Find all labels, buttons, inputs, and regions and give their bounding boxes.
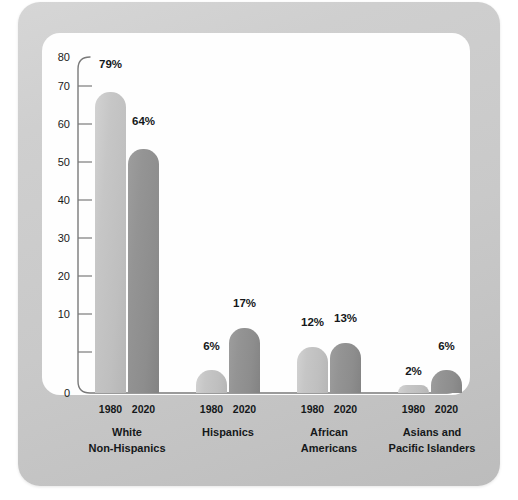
ytick-label-20: 20 bbox=[44, 271, 70, 282]
year-label-asians-pacific-islanders-2020: 2020 bbox=[426, 403, 467, 415]
bar-african-americans-2020 bbox=[330, 343, 361, 393]
bar-value-asians-pacific-islanders-2020: 6% bbox=[421, 340, 472, 352]
ytick-label-60: 60 bbox=[44, 119, 70, 130]
bar-value-asians-pacific-islanders-1980: 2% bbox=[388, 365, 439, 377]
ytick-label-0: 0 bbox=[44, 388, 70, 399]
chart-figure: 80 70 60 50 40 30 20 10 0 79% 64% 1980 2… bbox=[0, 0, 518, 500]
bar-hispanics-2020 bbox=[229, 328, 260, 393]
group-label-white-non-hispanics-line2: Non-Hispanics bbox=[57, 441, 197, 455]
year-label-african-americans-2020: 2020 bbox=[325, 403, 366, 415]
ytick-label-50: 50 bbox=[44, 157, 70, 168]
year-label-hispanics-2020: 2020 bbox=[224, 403, 265, 415]
bar-value-white-non-hispanics-1980: 79% bbox=[85, 58, 136, 70]
bar-african-americans-1980 bbox=[297, 347, 328, 393]
group-label-asians-pacific-islanders-line2: Pacific Islanders bbox=[360, 441, 504, 455]
group-label-asians-pacific-islanders-line1: Asians and bbox=[360, 425, 504, 439]
ytick-label-30: 30 bbox=[44, 233, 70, 244]
bar-white-non-hispanics-1980 bbox=[95, 92, 126, 393]
bar-value-hispanics-2020: 17% bbox=[219, 297, 270, 309]
bar-value-hispanics-1980: 6% bbox=[186, 340, 237, 352]
bar-white-non-hispanics-2020 bbox=[128, 149, 159, 393]
ytick-label-80: 80 bbox=[44, 52, 70, 63]
plot-area: 80 70 60 50 40 30 20 10 0 79% 64% 1980 2… bbox=[0, 0, 518, 500]
ytick-label-70: 70 bbox=[44, 81, 70, 92]
bar-value-african-americans-2020: 13% bbox=[320, 312, 371, 324]
year-label-white-non-hispanics-2020: 2020 bbox=[123, 403, 164, 415]
bar-asians-pacific-islanders-1980 bbox=[398, 385, 429, 393]
ytick-label-40: 40 bbox=[44, 195, 70, 206]
ytick-label-10: 10 bbox=[44, 309, 70, 320]
bar-hispanics-1980 bbox=[196, 370, 227, 393]
bar-value-white-non-hispanics-2020: 64% bbox=[118, 115, 169, 127]
